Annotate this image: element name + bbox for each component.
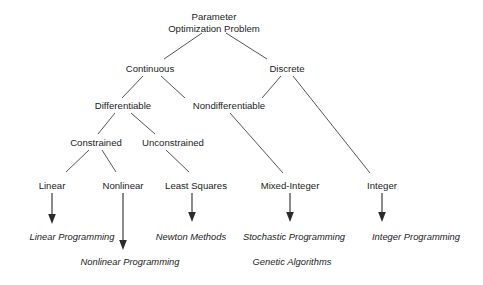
node-root-line2: Optimization Problem [168, 23, 260, 34]
edge-root-to-continuous [164, 33, 202, 59]
arrow-nonlinear-to-nonlinear-programming [119, 193, 127, 250]
node-differentiable: Differentiable [95, 100, 151, 111]
edge-unconstrained-to-least-squares [166, 150, 189, 172]
arrow-least-squares-to-newton-methods [188, 193, 196, 222]
arrow-linear-to-linear-programming [48, 193, 56, 224]
tree-diagram-canvas: Parameter Optimization Problem Continuou… [0, 0, 483, 285]
node-constrained: Constrained [70, 137, 122, 148]
edge-discrete-to-integer [293, 76, 370, 173]
node-nondifferentiable: Nondifferentiable [193, 100, 265, 111]
node-unconstrained: Unconstrained [142, 137, 204, 148]
node-discrete: Discrete [269, 63, 304, 74]
edge-differentiable-to-constrained [98, 113, 115, 134]
arrow-integer-to-integer-programming [378, 193, 386, 222]
node-nonlinear: Nonlinear [102, 180, 144, 191]
node-continuous: Continuous [126, 63, 175, 74]
method-genetic-algorithms: Genetic Algorithms [253, 256, 332, 267]
node-linear: Linear [39, 180, 66, 191]
node-label-group: Parameter Optimization Problem Continuou… [39, 11, 398, 191]
method-linear-programming: Linear Programming [30, 231, 116, 242]
method-newton-methods: Newton Methods [156, 231, 227, 242]
node-root-line1: Parameter [192, 11, 238, 22]
method-stochastic-programming: Stochastic Programming [243, 231, 346, 242]
optimization-taxonomy-diagram: Parameter Optimization Problem Continuou… [0, 0, 483, 285]
edge-differentiable-to-unconstrained [131, 113, 155, 134]
method-nonlinear-programming: Nonlinear Programming [80, 256, 180, 267]
edge-constrained-to-linear [66, 150, 89, 172]
edge-root-to-discrete [226, 33, 267, 59]
edge-nondifferentiable-to-mixed-integer [230, 113, 283, 173]
node-least-squares: Least Squares [165, 180, 227, 191]
node-integer: Integer [367, 180, 398, 191]
edge-continuous-to-differentiable [122, 76, 143, 98]
method-label-group: Linear Programming Nonlinear Programming… [30, 231, 461, 267]
node-mixed-integer: Mixed-Integer [261, 180, 320, 191]
method-integer-programming: Integer Programming [372, 231, 461, 242]
edge-constrained-to-nonlinear [102, 150, 116, 172]
edge-discrete-to-nondifferentiable [262, 76, 281, 98]
edge-continuous-to-nondifferentiable [161, 76, 185, 98]
arrow-mixed-integer-to-stochastic-programming [286, 193, 294, 222]
